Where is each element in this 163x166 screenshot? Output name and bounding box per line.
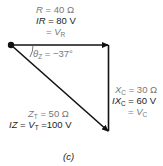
phasor-diagram xyxy=(0,0,163,166)
vt-value-label: IZ = VT =100 V xyxy=(9,119,72,130)
vc-symbol-label: = VC xyxy=(128,106,147,117)
impedance-label: ZT = 50 Ω xyxy=(28,108,69,119)
figure-caption: (c) xyxy=(63,151,74,162)
reactance-label: XC = 30 Ω xyxy=(115,84,157,95)
angle-label: θZ = −37° xyxy=(33,48,73,59)
vr-value-label: IR = 80 V xyxy=(36,15,76,26)
resistance-label: R = 40 Ω xyxy=(36,4,74,15)
vc-value-label: IXC = 60 V xyxy=(112,95,156,106)
vr-symbol-label: = VR xyxy=(46,26,65,37)
